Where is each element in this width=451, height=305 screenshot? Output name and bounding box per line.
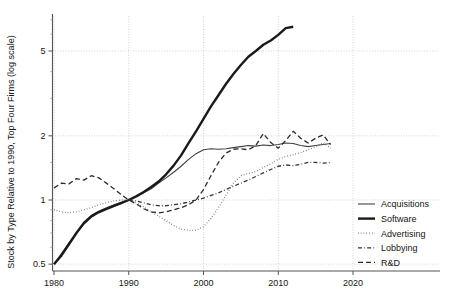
line-chart: 0.512519801990200020102020 Stock by Type… [0, 0, 451, 305]
series-line-advertising [54, 143, 331, 231]
legend-label-software: Software [381, 214, 417, 224]
legend-label-acquisitions: Acquisitions [381, 199, 430, 209]
axis-ticks [49, 20, 354, 275]
x-tick-label: 1980 [44, 278, 64, 288]
y-tick-label: 2 [40, 131, 45, 141]
data-series-group [54, 27, 331, 264]
legend-label-r-d: R&D [381, 258, 401, 268]
chart-figure: 0.512519801990200020102020 Stock by Type… [0, 0, 451, 305]
x-tick-label: 1990 [119, 278, 139, 288]
axis-tick-labels: 0.512519801990200020102020 [33, 46, 363, 288]
series-line-acquisitions [54, 143, 331, 264]
y-tick-label: 5 [40, 46, 45, 56]
x-tick-label: 2010 [268, 278, 288, 288]
chart-legend: AcquisitionsSoftwareAdvertisingLobbyingR… [358, 199, 430, 267]
y-tick-label: 0.5 [33, 259, 46, 269]
legend-label-lobbying: Lobbying [381, 243, 418, 253]
y-axis-title-text: Stock by Type Relative to 1990, Top Four… [6, 35, 16, 268]
x-tick-label: 2000 [193, 278, 213, 288]
x-tick-label: 2020 [343, 278, 363, 288]
y-tick-label: 1 [40, 195, 45, 205]
y-axis-title: Stock by Type Relative to 1990, Top Four… [6, 35, 16, 268]
series-line-lobbying [129, 162, 331, 205]
legend-label-advertising: Advertising [381, 229, 426, 239]
